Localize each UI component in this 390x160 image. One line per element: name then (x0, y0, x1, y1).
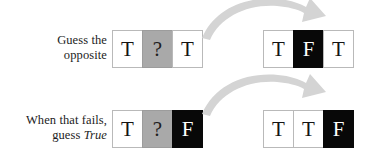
caption-row-2-line-2-emphasis: True (84, 128, 107, 142)
cell-row-1-after-2: F (293, 30, 324, 68)
cell-row-1-after-1: T (263, 30, 294, 68)
caption-row-2-line-1: When that fails, (0, 113, 107, 128)
cell-group-row-1-after: T F T (263, 30, 354, 68)
cell-row-1-after-3: T (323, 30, 354, 68)
caption-row-2-line-2: guess True (0, 128, 107, 143)
caption-row-1: Guess the opposite (0, 33, 107, 63)
cell-row-1-before-2: ? (142, 30, 173, 68)
caption-row-1-line-2: opposite (0, 48, 107, 63)
cell-group-row-2-after: T T F (263, 110, 354, 148)
cell-row-2-before-1: T (112, 110, 143, 148)
caption-row-2: When that fails, guess True (0, 113, 107, 143)
cell-row-2-before-2: ? (142, 110, 173, 148)
cell-row-1-before-1: T (112, 30, 143, 68)
cell-row-2-after-2: T (293, 110, 324, 148)
cell-row-2-before-3: F (172, 110, 203, 148)
diagram-canvas: Guess the opposite T ? T T F T When that… (0, 0, 390, 160)
caption-row-1-line-1: Guess the (0, 33, 107, 48)
cell-group-row-1-before: T ? T (112, 30, 203, 68)
caption-row-2-line-2-prefix: guess (52, 128, 84, 142)
cell-group-row-2-before: T ? F (112, 110, 203, 148)
cell-row-1-before-3: T (172, 30, 203, 68)
cell-row-2-after-3: F (323, 110, 354, 148)
cell-row-2-after-1: T (263, 110, 294, 148)
